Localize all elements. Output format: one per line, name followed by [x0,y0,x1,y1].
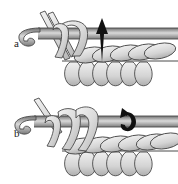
panel-a: a [0,0,178,92]
base-stitch-bottom-loops [65,152,153,176]
crochet-hook-shaft [38,28,178,39]
crochet-hook-head [15,116,36,134]
base-stitch-bottom-loops [65,62,153,86]
panel-b-drawing [0,92,178,184]
panel-b: b [0,92,178,184]
panel-a-drawing [0,0,178,92]
crochet-instruction-figure: a [0,0,178,184]
completed-stitch-row [73,40,177,65]
crochet-hook-head [19,28,40,46]
